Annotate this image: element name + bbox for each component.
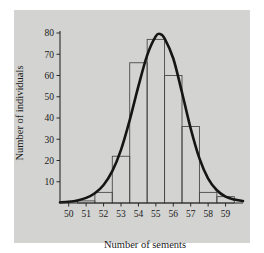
histogram-bar <box>199 192 216 203</box>
histogram-bar <box>147 39 164 203</box>
y-axis-tick-label: 50 <box>45 92 55 102</box>
histogram-bar <box>165 76 182 204</box>
histogram-bar <box>182 127 199 204</box>
y-axis-tick-label: 70 <box>45 50 55 60</box>
x-axis-tick-label: 59 <box>221 209 231 219</box>
y-axis-ticks: 1020304050607080 <box>45 28 61 187</box>
x-axis-tick-label: 54 <box>134 209 144 219</box>
fitted-normal-curve <box>60 34 243 203</box>
x-axis-tick-label: 50 <box>64 209 74 219</box>
y-axis-tick-label: 80 <box>45 28 55 38</box>
chart-axes <box>60 31 243 203</box>
x-axis-tick-label: 55 <box>151 209 161 219</box>
histogram-bar <box>95 192 112 203</box>
x-axis-ticks: 50515253545556575859 <box>64 203 231 219</box>
y-axis-tick-label: 30 <box>45 135 55 145</box>
x-axis-title: Number of sements <box>104 239 186 250</box>
y-axis-tick-label: 60 <box>45 71 55 81</box>
x-axis-tick-label: 52 <box>99 209 109 219</box>
x-axis-tick-label: 51 <box>81 209 91 219</box>
chart-canvas: 1020304050607080 50515253545556575859 Nu… <box>0 0 264 253</box>
y-axis-tick-label: 10 <box>45 177 55 187</box>
x-axis-tick-label: 53 <box>116 209 126 219</box>
x-axis-tick-label: 56 <box>169 209 179 219</box>
histogram-figure: 1020304050607080 50515253545556575859 Nu… <box>0 0 264 253</box>
x-axis-tick-label: 58 <box>203 209 213 219</box>
y-axis-tick-label: 20 <box>45 156 55 166</box>
y-axis-tick-label: 40 <box>45 113 55 123</box>
x-axis-tick-label: 57 <box>186 209 196 219</box>
histogram-bars <box>77 39 234 203</box>
y-axis-title: Number of individuals <box>14 65 25 160</box>
